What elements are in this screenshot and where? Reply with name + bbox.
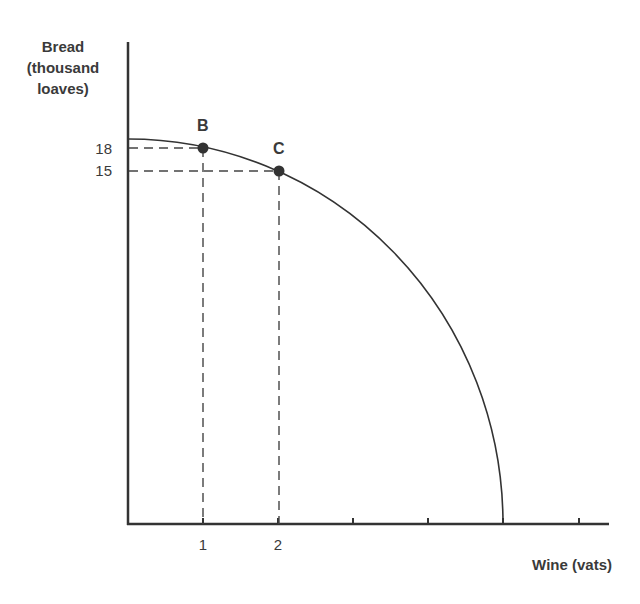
point-c-marker	[274, 166, 285, 177]
x-tick-1: 1	[193, 536, 213, 553]
ppf-curve	[128, 139, 503, 524]
point-c-label: C	[273, 140, 285, 158]
y-tick-18: 18	[72, 140, 112, 157]
ppf-chart	[0, 0, 640, 604]
y-tick-15: 15	[72, 162, 112, 179]
point-b-label: B	[197, 117, 209, 135]
point-b-marker	[198, 143, 209, 154]
x-tick-2: 2	[268, 536, 288, 553]
x-axis-label: Wine (vats)	[532, 556, 612, 573]
guide-lines	[129, 148, 279, 524]
